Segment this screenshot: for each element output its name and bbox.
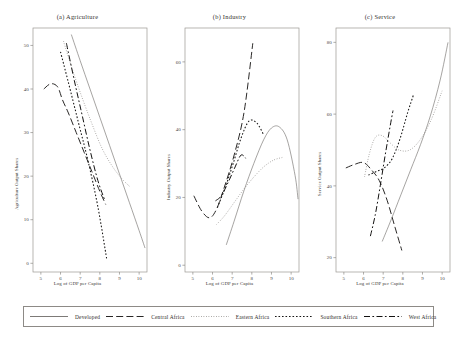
series-line-service-southern-africa [368,94,413,175]
legend-label: West Africa [403,314,437,320]
series-line-industry-eastern-africa [216,157,282,224]
legend-key-dashed-icon [105,312,145,321]
series-line-agriculture-eastern-africa [63,41,130,187]
legend-label: Eastern Africa [230,314,270,320]
legend-item-central-africa: Central Africa [100,312,184,321]
series-line-agriculture-central-africa [44,84,106,205]
y-tick-label-service: 20 [327,255,333,260]
plot-area-service: 204060805678910 [303,0,457,300]
y-tick-label-industry: 40 [176,127,182,132]
x-tick-label-agriculture: 5 [40,276,43,281]
x-tick-label-service: 6 [362,276,365,281]
legend-key-solid-icon [29,312,69,321]
x-tick-label-service: 7 [382,276,385,281]
y-tick-label-agriculture: 20 [24,174,30,179]
legend-key-coarse-dotted-icon [274,312,314,321]
legend-label: Developed [69,314,100,320]
legend-key-dash-dot-icon [363,312,403,321]
x-axis-label-service: Log of GDP per Capita [303,281,457,286]
series-line-industry-west-africa [215,155,245,201]
panel-title-industry: (b) Industry [152,13,307,20]
series-line-service-central-africa [346,162,402,250]
y-tick-label-agriculture: 30 [24,130,30,135]
y-tick-label-agriculture: 40 [24,87,30,92]
chart-panel-industry: 02040605678910 (b) Industry Industry Out… [152,0,307,300]
x-tick-label-agriculture: 6 [59,276,62,281]
x-tick-label-industry: 10 [289,276,295,281]
legend-label: Central Africa [145,314,184,320]
x-tick-label-industry: 9 [270,276,273,281]
x-axis-label-agriculture: Log of GDP per Capita [0,281,155,286]
plot-area-industry: 02040605678910 [152,0,307,300]
x-tick-label-service: 8 [402,276,405,281]
figure-panel-group: 010203040505678910 (a) Agriculture Agric… [0,0,457,339]
plot-area-agriculture: 010203040505678910 [0,0,155,300]
series-line-service-west-africa [370,111,393,237]
y-tick-label-industry: 60 [176,60,182,65]
x-tick-label-agriculture: 10 [137,276,143,281]
y-axis-label-service: Service Output Shares [317,152,322,196]
legend-item-southern-africa: Southern Africa [269,312,357,321]
x-axis-label-industry: Log of GDP per Capita [152,281,307,286]
x-tick-label-agriculture: 7 [79,276,82,281]
chart-legend: DevelopedCentral AfricaEastern AfricaSou… [23,306,434,327]
x-tick-label-industry: 7 [231,276,234,281]
legend-item-developed: Developed [24,312,100,321]
x-tick-label-service: 10 [440,276,446,281]
chart-panel-service: 204060805678910 (c) Service Service Outp… [303,0,457,300]
y-axis-label-agriculture: Agriculture Output Shares [14,158,19,210]
y-tick-label-agriculture: 0 [26,261,29,266]
plot-frame-service [336,28,450,272]
series-line-service-developed [382,42,448,241]
y-tick-label-service: 60 [327,112,333,117]
plot-frame-industry [185,28,299,272]
x-tick-label-industry: 5 [192,276,195,281]
y-tick-label-industry: 0 [178,263,181,268]
series-line-service-eastern-africa [365,91,443,177]
y-tick-label-industry: 20 [176,195,182,200]
legend-key-fine-dotted-icon [190,312,230,321]
y-tick-label-agriculture: 10 [24,217,30,222]
x-tick-label-service: 9 [421,276,424,281]
x-tick-label-industry: 8 [251,276,254,281]
panel-title-agriculture: (a) Agriculture [0,13,155,20]
y-axis-label-industry: Industry Output Shares [166,154,171,200]
legend-item-west-africa: West Africa [358,312,437,321]
series-line-agriculture-developed [71,35,145,249]
series-line-industry-southern-africa [217,120,263,208]
y-tick-label-service: 80 [327,40,333,45]
x-tick-label-service: 5 [343,276,346,281]
legend-label: Southern Africa [314,314,357,320]
x-tick-label-agriculture: 9 [118,276,121,281]
x-tick-label-agriculture: 8 [99,276,102,281]
x-tick-label-industry: 6 [211,276,214,281]
panel-title-service: (c) Service [303,13,457,20]
series-line-agriculture-southern-africa [61,52,107,259]
y-tick-label-agriculture: 50 [24,43,30,48]
chart-panel-agriculture: 010203040505678910 (a) Agriculture Agric… [0,0,155,300]
y-tick-label-service: 40 [327,184,333,189]
legend-item-eastern-africa: Eastern Africa [185,312,270,321]
